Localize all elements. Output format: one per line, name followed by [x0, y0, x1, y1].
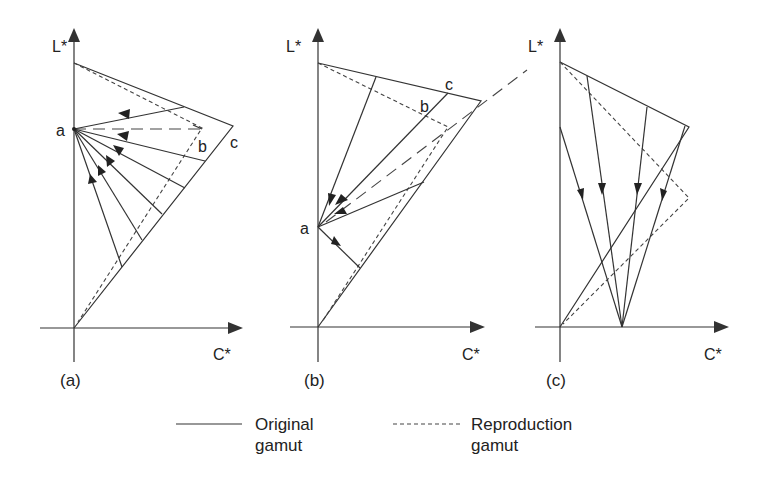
- arrowhead-icon: [331, 236, 341, 246]
- arrowhead-icon: [118, 109, 130, 119]
- c-axis-arrow-icon: [714, 321, 729, 333]
- point-label-a: a: [300, 220, 309, 237]
- arrowhead-icon: [328, 193, 336, 206]
- panel-c: L* C* (c): [528, 28, 729, 390]
- point-label-b: b: [420, 98, 429, 115]
- arrowhead-icon: [598, 183, 606, 195]
- point-label-a: a: [56, 122, 65, 139]
- mapping-lines: [560, 76, 685, 327]
- legend-reproduction-line2: gamut: [471, 436, 519, 455]
- c-axis-label: C*: [704, 346, 722, 363]
- panel-caption: (b): [304, 371, 325, 390]
- arrowhead-icon: [634, 183, 642, 195]
- focal-point: [72, 127, 76, 131]
- panel-a: L* C* (a) a b c: [40, 28, 243, 390]
- original-gamut: [560, 62, 689, 327]
- original-gamut: [74, 63, 233, 328]
- c-axis-label: C*: [462, 346, 480, 363]
- c-axis-arrow-icon: [228, 322, 243, 334]
- c-axis-arrow-icon: [470, 321, 485, 333]
- arrowhead-icon: [660, 188, 667, 201]
- l-axis-label: L*: [52, 38, 67, 55]
- legend: Original gamut Reproduction gamut: [176, 415, 572, 455]
- l-axis-label: L*: [286, 38, 301, 55]
- reproduction-gamut: [74, 63, 202, 322]
- legend-original-line1: Original: [255, 415, 314, 434]
- legend-reproduction-line1: Reproduction: [471, 415, 572, 434]
- panel-caption: (c): [546, 371, 566, 390]
- point-label-c: c: [445, 76, 453, 93]
- l-axis-label: L*: [528, 38, 543, 55]
- arrowhead-icon: [577, 188, 584, 200]
- legend-original-line2: gamut: [255, 436, 303, 455]
- panel-b: L* C* (b) a b c: [286, 28, 527, 390]
- arrowhead-icon: [88, 174, 97, 184]
- l-axis-arrow-icon: [554, 28, 566, 42]
- l-axis-arrow-icon: [312, 28, 324, 42]
- gamut-mapping-figure: L* C* (a) a b c: [0, 0, 763, 480]
- original-gamut: [318, 63, 481, 327]
- cusp-line: [326, 70, 527, 222]
- arrowhead-icon: [106, 155, 115, 167]
- c-axis-label: C*: [213, 346, 231, 363]
- l-axis-arrow-icon: [68, 28, 80, 42]
- panel-caption: (a): [60, 371, 81, 390]
- point-label-b: b: [198, 138, 207, 155]
- point-label-c: c: [230, 134, 238, 151]
